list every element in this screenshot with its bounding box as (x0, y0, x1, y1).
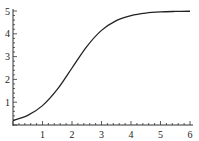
y-tick-label: 5 (5, 6, 10, 17)
y-tick-label: 2 (5, 74, 10, 85)
x-tick-label: 1 (40, 129, 45, 140)
logistic-line-chart: 12345612345 (0, 0, 199, 141)
x-tick-label: 3 (99, 129, 104, 140)
x-tick-label: 4 (129, 129, 134, 140)
tick-labels: 12345612345 (5, 6, 193, 141)
y-tick-label: 4 (5, 28, 10, 39)
data-line (13, 11, 190, 120)
y-tick-label: 3 (5, 51, 10, 62)
y-tick-label: 1 (5, 97, 10, 108)
x-tick-label: 6 (188, 129, 193, 140)
x-tick-label: 2 (70, 129, 75, 140)
x-tick-label: 5 (158, 129, 163, 140)
